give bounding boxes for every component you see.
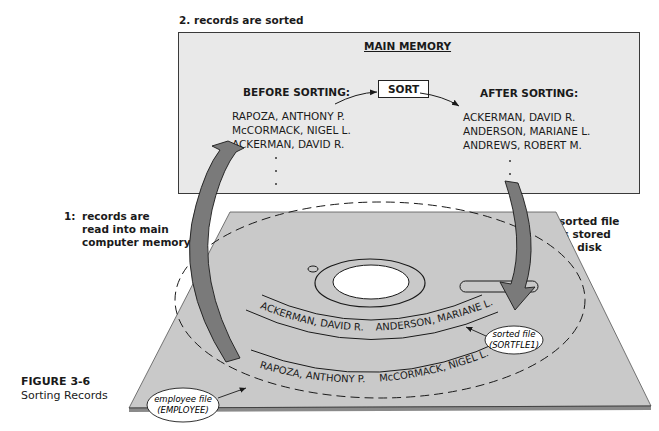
svg-text:(SORTFLE1): (SORTFLE1) bbox=[489, 340, 539, 350]
svg-text:(EMPLOYEE): (EMPLOYEE) bbox=[157, 405, 209, 415]
diagram-graphics: ACKERMAN, DAVID R.ANDERSON, MARIANE L. R… bbox=[0, 0, 659, 431]
arrow-from-sort-icon bbox=[420, 93, 459, 106]
arrow-to-sort-icon bbox=[335, 92, 377, 104]
svg-text:employee file: employee file bbox=[154, 394, 212, 404]
after-ellipsis-dots bbox=[509, 160, 511, 175]
disk-center-hole bbox=[333, 265, 409, 299]
before-ellipsis-dots bbox=[275, 157, 277, 185]
svg-text:sorted file: sorted file bbox=[493, 329, 536, 339]
